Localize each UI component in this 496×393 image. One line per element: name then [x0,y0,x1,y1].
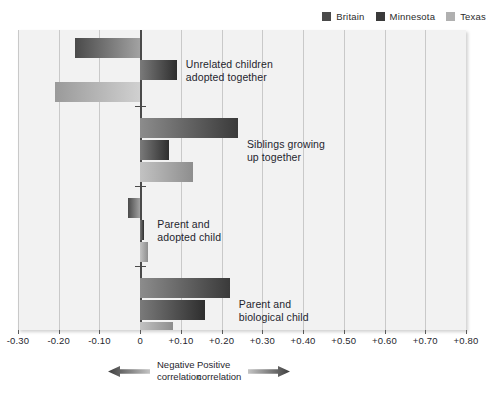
axis-tick [344,330,345,334]
axis-tick-label: +0.60 [372,335,397,346]
gridline [99,30,100,330]
correlation-captions: Negative correlation Positive correlatio… [0,356,496,390]
legend-label-britain: Britain [336,11,364,22]
bar-britain [140,278,230,298]
category-label: Unrelated childrenadopted together [186,58,273,84]
bar-minnesota [140,140,169,160]
bar-texas [55,82,141,102]
axis-tick-label: 0 [137,335,142,346]
axis-tick [222,330,223,334]
category-label-line1: Unrelated children [186,58,273,70]
legend-label-minnesota: Minnesota [390,11,436,22]
group-separator [135,106,146,107]
arrow-left-icon [108,366,150,377]
bar-minnesota [140,60,177,80]
axis-tick-label: +0.30 [250,335,275,346]
chart-plot-area: Unrelated childrenadopted togetherSiblin… [18,30,466,330]
legend-entry-minnesota: Minnesota [376,11,436,22]
category-label: Parent andadopted child [157,218,221,244]
legend-swatch-texas [446,12,455,21]
axis-tick-label: +0.70 [413,335,438,346]
bar-texas [140,322,173,330]
negative-correlation-caption: Negative correlation [108,359,201,383]
category-label-line1: Parent and [239,298,291,310]
positive-correlation-line1: Positive [197,359,230,370]
axis-tick-label: +0.10 [168,335,193,346]
axis-tick [466,330,467,334]
axis-tick [181,330,182,334]
legend-swatch-minnesota [376,12,385,21]
gridline [385,30,386,330]
category-label: Siblings growingup together [247,138,325,164]
axis-tick-label: +0.80 [453,335,478,346]
category-label-line2: biological child [239,311,309,323]
x-axis: -0.30-0.20-0.100+0.10+0.20+0.30+0.40+0.5… [18,330,466,352]
bar-minnesota [140,300,205,320]
chart-legend: Britain Minnesota Texas [311,11,486,22]
group-separator [135,266,146,267]
bar-texas [140,162,193,182]
category-label-line1: Siblings growing [247,138,325,150]
axis-tick [262,330,263,334]
negative-correlation-text: Negative correlation [157,359,201,383]
gridline [425,30,426,330]
category-label-line2: adopted child [157,231,221,243]
axis-tick-label: +0.40 [291,335,316,346]
group-separator [135,186,146,187]
bar-britain [128,198,140,218]
legend-label-texas: Texas [460,11,486,22]
gridline [59,30,60,330]
bar-texas [140,242,148,262]
gridline [303,30,304,330]
category-label: Parent andbiological child [239,298,309,324]
axis-tick-label: -0.30 [7,335,30,346]
positive-correlation-line2: correlation [197,371,241,382]
bar-minnesota [140,220,144,240]
negative-correlation-line2: correlation [157,371,201,382]
axis-tick [140,330,141,334]
axis-tick [385,330,386,334]
axis-tick-label: +0.50 [331,335,356,346]
category-label-line2: up together [247,151,301,163]
axis-tick [18,330,19,334]
axis-tick [59,330,60,334]
bar-britain [140,118,238,138]
axis-tick [303,330,304,334]
category-label-line2: adopted together [186,71,267,83]
negative-correlation-line1: Negative [157,359,195,370]
legend-entry-texas: Texas [446,11,486,22]
legend-swatch-britain [322,12,331,21]
gridline [344,30,345,330]
axis-tick-label: -0.20 [47,335,70,346]
legend-entry-britain: Britain [322,11,364,22]
axis-tick-label: -0.10 [88,335,111,346]
arrow-right-icon [248,366,290,377]
bar-britain [75,38,140,58]
positive-correlation-text: Positive correlation [197,359,241,383]
category-label-line1: Parent and [157,218,209,230]
axis-tick [99,330,100,334]
axis-tick [425,330,426,334]
positive-correlation-caption: Positive correlation [197,359,290,383]
gridline [18,30,19,330]
axis-tick-label: +0.20 [209,335,234,346]
